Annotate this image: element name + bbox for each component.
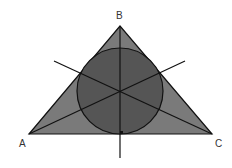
vertex-label-b: B bbox=[116, 10, 123, 21]
right-angle-marker bbox=[120, 131, 123, 134]
triangle-diagram bbox=[0, 0, 232, 168]
vertex-label-c: C bbox=[215, 138, 222, 149]
vertex-label-a: A bbox=[19, 138, 26, 149]
